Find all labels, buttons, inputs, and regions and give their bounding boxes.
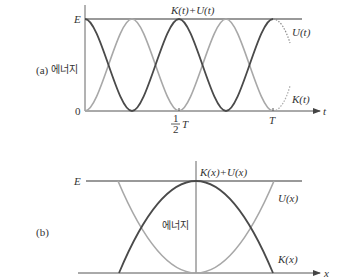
kinetic-label: K(t) [291,93,310,106]
energy-diagram: (a) 에너지 E 0 K(t)+U(t) U(t) K(t) t 1 2 T … [0,0,348,279]
kinetic-continuation [273,19,290,43]
y-tick-E: E [73,13,81,25]
total-label: K(x)+U(x) [199,166,247,179]
potential-label: U(x) [278,192,298,205]
kinetic-label: K(x) [277,253,298,266]
potential-label: U(t) [292,26,311,39]
potential-continuation [273,86,290,111]
panel-b-label: (b) [36,226,49,239]
panel-a-ylabel: 에너지 [51,64,78,75]
x-axis-label: x [323,267,329,279]
y-tick-E: E [73,175,81,187]
tick-T: T [269,114,276,126]
x-axis-label: t [323,105,327,117]
potential-energy-curve [85,19,273,111]
panel-b: (b) 에너지 E K(x)+U(x) U(x) K(x) x [36,161,329,279]
total-label: K(t)+U(t) [170,4,215,17]
panel-a-label: (a) [36,64,49,77]
half-denominator: 2 [173,123,179,135]
y-tick-0: 0 [75,105,81,117]
panel-b-ylabel: 에너지 [162,220,189,231]
half-T: T [182,118,189,130]
panel-a: (a) 에너지 E 0 K(t)+U(t) U(t) K(t) t 1 2 T … [36,4,327,135]
kinetic-energy-curve [85,19,273,111]
